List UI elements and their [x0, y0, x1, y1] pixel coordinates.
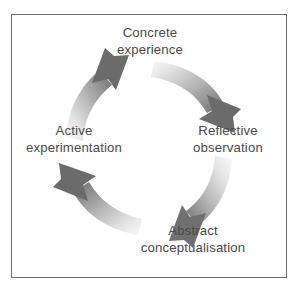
stage-label-line-1: Active: [12, 123, 136, 140]
stage-label-abstract-conceptualisation: Abstract conceptualisation: [98, 223, 288, 256]
stage-label-concrete-experience: Concrete experience: [12, 25, 288, 58]
figure-root: Concrete experience Reflective observati…: [0, 0, 297, 290]
stage-label-active-experimentation: Active experimentation: [12, 123, 136, 156]
stage-label-reflective-observation: Reflective observation: [168, 123, 288, 156]
stage-label-line-2: experimentation: [12, 140, 136, 157]
stage-label-line-1: Concrete: [12, 25, 288, 42]
stage-label-line-2: experience: [12, 42, 288, 59]
stage-label-line-2: conceptualisation: [98, 240, 288, 257]
stage-label-line-1: Abstract: [98, 223, 288, 240]
stage-label-line-1: Reflective: [168, 123, 288, 140]
stage-label-line-2: observation: [168, 140, 288, 157]
diagram-frame: Concrete experience Reflective observati…: [11, 14, 287, 278]
